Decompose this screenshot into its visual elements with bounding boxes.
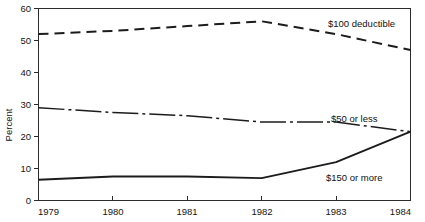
- chart-container: 60 50 40 30 20 10 0 Percent 1979 1980 19…: [0, 0, 425, 222]
- series-label-100-deductible: $100 deductible: [328, 18, 395, 29]
- x-tick-label-1981: 1981: [176, 206, 197, 217]
- y-tick-marks: [34, 9, 39, 201]
- x-tick-label-1984: 1984: [390, 206, 411, 217]
- series-label-50-or-less: $50 or less: [331, 113, 378, 124]
- y-tick-label-0: 0: [26, 195, 31, 206]
- y-tick-label-30: 30: [20, 99, 31, 110]
- x-tick-marks: [39, 196, 411, 201]
- x-tick-label-1980: 1980: [102, 206, 123, 217]
- y-tick-label-50: 50: [20, 35, 31, 46]
- y-tick-label-40: 40: [20, 67, 31, 78]
- y-axis-title: Percent: [3, 108, 14, 141]
- series-label-150-or-more: $150 or more: [326, 172, 383, 183]
- x-tick-label-1983: 1983: [325, 206, 346, 217]
- x-tick-label-1979: 1979: [38, 206, 59, 217]
- line-chart: 60 50 40 30 20 10 0 Percent 1979 1980 19…: [0, 0, 425, 222]
- series-group: [39, 21, 411, 179]
- y-tick-label-20: 20: [20, 131, 31, 142]
- y-tick-labels: 60 50 40 30 20 10 0: [20, 3, 31, 206]
- y-tick-label-60: 60: [20, 3, 31, 14]
- y-tick-label-10: 10: [20, 163, 31, 174]
- x-tick-labels: 1979 1980 1981 1982 1983 1984: [38, 206, 411, 217]
- x-tick-label-1982: 1982: [251, 206, 272, 217]
- series-labels: $100 deductible $50 or less $150 or more: [326, 18, 395, 183]
